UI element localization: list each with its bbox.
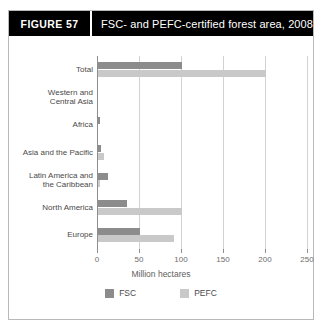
x-axis-tick <box>223 249 224 253</box>
figure-card: FIGURE 57 FSC- and PEFC-certified forest… <box>8 10 314 320</box>
category-label: Western andCentral Asia <box>0 88 93 107</box>
bar-pefc <box>98 70 266 77</box>
gridline <box>181 56 182 249</box>
x-axis-tick <box>265 249 266 253</box>
figure-header: FIGURE 57 FSC- and PEFC-certified forest… <box>9 11 313 36</box>
figure-number-label: FIGURE 57 <box>9 18 90 30</box>
x-axis-tick <box>139 249 140 253</box>
x-axis-tick-label: 50 <box>135 255 144 264</box>
bar-pefc <box>98 180 100 187</box>
category-label: Europe <box>0 230 93 240</box>
category-label: Total <box>0 65 93 75</box>
chart-plot-area: 050100150200250 TotalWestern andCentral … <box>9 36 313 319</box>
bar-pefc <box>98 208 182 215</box>
chart-legend: FSCPEFC <box>9 288 313 298</box>
x-axis-tick <box>97 249 98 253</box>
legend-label: PEFC <box>194 288 217 298</box>
legend-swatch <box>180 289 189 298</box>
legend-label: FSC <box>119 288 136 298</box>
x-axis-tick <box>307 249 308 253</box>
bar-pefc <box>98 235 174 242</box>
x-axis-tick-label: 150 <box>216 255 229 264</box>
gridline <box>139 56 140 249</box>
bar-pefc <box>98 153 104 160</box>
category-label: Asia and the Pacific <box>0 148 93 158</box>
gridline <box>223 56 224 249</box>
x-axis-tick-label: 100 <box>174 255 187 264</box>
bar-fsc <box>98 173 108 180</box>
bar-fsc <box>98 145 101 152</box>
bar-fsc <box>98 228 140 235</box>
category-label: North America <box>0 203 93 213</box>
category-label: Africa <box>0 120 93 130</box>
x-axis-tick-label: 200 <box>258 255 271 264</box>
bar-fsc <box>98 200 127 207</box>
bar-fsc <box>98 117 100 124</box>
legend-item: FSC <box>105 288 136 298</box>
x-axis-tick <box>181 249 182 253</box>
figure-title: FSC- and PEFC-certified forest area, 200… <box>92 18 313 30</box>
legend-item: PEFC <box>180 288 217 298</box>
x-axis-tick-label: 250 <box>300 255 313 264</box>
gridline <box>307 56 308 249</box>
x-axis-tick-label: 0 <box>95 255 99 264</box>
x-axis-label: Million hectares <box>9 269 313 279</box>
gridline <box>265 56 266 249</box>
category-label: Latin America andthe Caribbean <box>0 171 93 190</box>
bar-fsc <box>98 62 182 69</box>
legend-swatch <box>105 289 114 298</box>
